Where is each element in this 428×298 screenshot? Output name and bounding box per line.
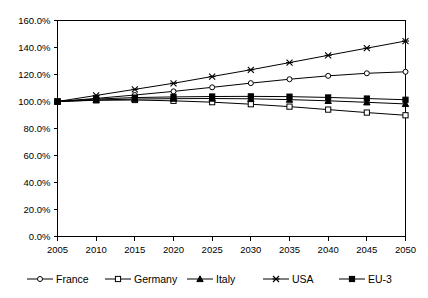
data-point-marker-solid-square	[210, 94, 215, 99]
data-point-marker-open-circle	[326, 73, 331, 78]
legend-item-label: USA	[292, 273, 314, 285]
data-point-marker-open-circle	[38, 277, 43, 282]
x-tick-label: 2045	[356, 244, 377, 255]
legend-item-label: France	[56, 273, 89, 285]
x-tick-label: 2035	[279, 244, 300, 255]
data-point-marker-solid-square	[403, 97, 408, 102]
data-point-marker-cross	[273, 276, 280, 282]
series-line	[58, 100, 406, 115]
y-axis-tick-labels: 0.0%20.0%40.0%60.0%80.0%100.0%120.0%140.…	[18, 15, 51, 242]
series-line	[58, 72, 406, 102]
data-point-marker-open-square	[287, 104, 292, 109]
data-point-marker-open-circle	[248, 81, 253, 86]
legend-item-eu-3[interactable]: EU-3	[339, 273, 392, 285]
data-point-marker-open-circle	[403, 69, 408, 74]
data-point-marker-cross	[131, 86, 138, 92]
x-tick-label: 2015	[124, 244, 145, 255]
x-axis-tick-marks	[58, 237, 406, 241]
data-point-marker-solid-square	[94, 96, 99, 101]
plot-area-frame	[58, 21, 406, 237]
data-point-marker-cross	[363, 45, 370, 51]
data-point-marker-solid-square	[326, 95, 331, 100]
y-tick-label: 140.0%	[18, 42, 51, 53]
plot-border	[58, 21, 406, 237]
y-tick-label: 100.0%	[18, 96, 51, 107]
data-point-marker-open-circle	[210, 85, 215, 90]
x-tick-label: 2005	[47, 244, 68, 255]
legend-item-france[interactable]: France	[27, 273, 89, 285]
data-point-marker-solid-square	[287, 94, 292, 99]
data-point-marker-solid-square	[132, 95, 137, 100]
y-tick-label: 60.0%	[24, 150, 51, 161]
x-tick-label: 2040	[318, 244, 339, 255]
series-line	[58, 41, 406, 101]
legend-item-label: Germany	[134, 273, 178, 285]
legend-item-label: Italy	[216, 273, 236, 285]
x-tick-label: 2010	[86, 244, 107, 255]
legend-item-germany[interactable]: Germany	[105, 273, 178, 285]
data-point-marker-cross	[170, 80, 177, 86]
legend-item-label: EU-3	[368, 273, 392, 285]
chart-legend: FranceGermanyItalyUSAEU-3	[9, 263, 420, 294]
x-tick-label: 2020	[163, 244, 184, 255]
data-point-marker-cross	[247, 67, 254, 73]
data-point-marker-cross	[325, 52, 332, 58]
x-tick-label: 2025	[202, 244, 223, 255]
data-point-marker-solid-square	[171, 94, 176, 99]
data-point-marker-open-circle	[171, 89, 176, 94]
y-tick-label: 80.0%	[24, 123, 51, 134]
series-germany	[55, 97, 408, 117]
x-tick-label: 2050	[395, 244, 416, 255]
data-point-marker-open-circle	[287, 77, 292, 82]
data-point-marker-cross	[286, 60, 293, 66]
chart-container: 0.0%20.0%40.0%60.0%80.0%100.0%120.0%140.…	[0, 0, 428, 298]
y-axis-tick-marks	[54, 21, 58, 237]
data-point-marker-open-square	[364, 110, 369, 115]
data-point-marker-solid-square	[349, 276, 354, 281]
data-point-marker-open-square	[248, 102, 253, 107]
data-point-marker-solid-square	[55, 99, 60, 104]
y-tick-label: 40.0%	[24, 177, 51, 188]
legend-item-usa[interactable]: USA	[263, 273, 314, 285]
y-tick-label: 120.0%	[18, 69, 51, 80]
x-axis-tick-labels: 2005201020152020202520302035204020452050	[47, 244, 416, 255]
data-point-marker-open-square	[115, 276, 120, 281]
y-tick-label: 160.0%	[18, 15, 51, 26]
data-point-marker-solid-square	[364, 96, 369, 101]
x-tick-label: 2030	[240, 244, 261, 255]
data-series-layer	[54, 38, 409, 118]
series-usa	[54, 38, 409, 104]
y-tick-label: 0.0%	[29, 231, 51, 242]
data-point-marker-solid-square	[248, 94, 253, 99]
data-point-marker-open-square	[326, 107, 331, 112]
data-point-marker-cross	[209, 74, 216, 80]
data-point-marker-open-circle	[364, 71, 369, 76]
data-point-marker-open-square	[403, 113, 408, 118]
y-tick-label: 20.0%	[24, 204, 51, 215]
legend-item-italy[interactable]: Italy	[187, 273, 236, 285]
line-chart: 0.0%20.0%40.0%60.0%80.0%100.0%120.0%140.…	[0, 0, 428, 298]
